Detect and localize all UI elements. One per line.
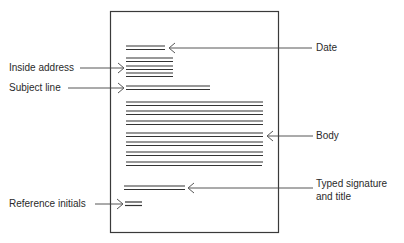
subject-line-block — [126, 86, 210, 90]
signature-block — [124, 186, 185, 190]
inside-address-block — [126, 58, 173, 77]
label-body: Body — [316, 130, 339, 142]
reference-initials-arrow — [95, 199, 123, 209]
page-outline — [111, 12, 279, 233]
body-block — [126, 102, 263, 166]
reference-initials-block — [125, 202, 142, 206]
subject-line-arrow — [68, 83, 124, 93]
date-block — [126, 46, 165, 50]
label-inside-address: Inside address — [9, 62, 74, 74]
label-reference-initials: Reference initials — [9, 198, 86, 210]
label-signature-line1: Typed signature — [316, 178, 387, 190]
body-arrow — [267, 131, 313, 141]
label-date: Date — [316, 42, 337, 54]
signature-arrow — [188, 183, 313, 193]
inside-address-arrow — [80, 63, 124, 73]
label-signature-line2: and title — [316, 191, 351, 203]
label-subject-line: Subject line — [9, 82, 61, 94]
date-arrow — [169, 43, 312, 53]
